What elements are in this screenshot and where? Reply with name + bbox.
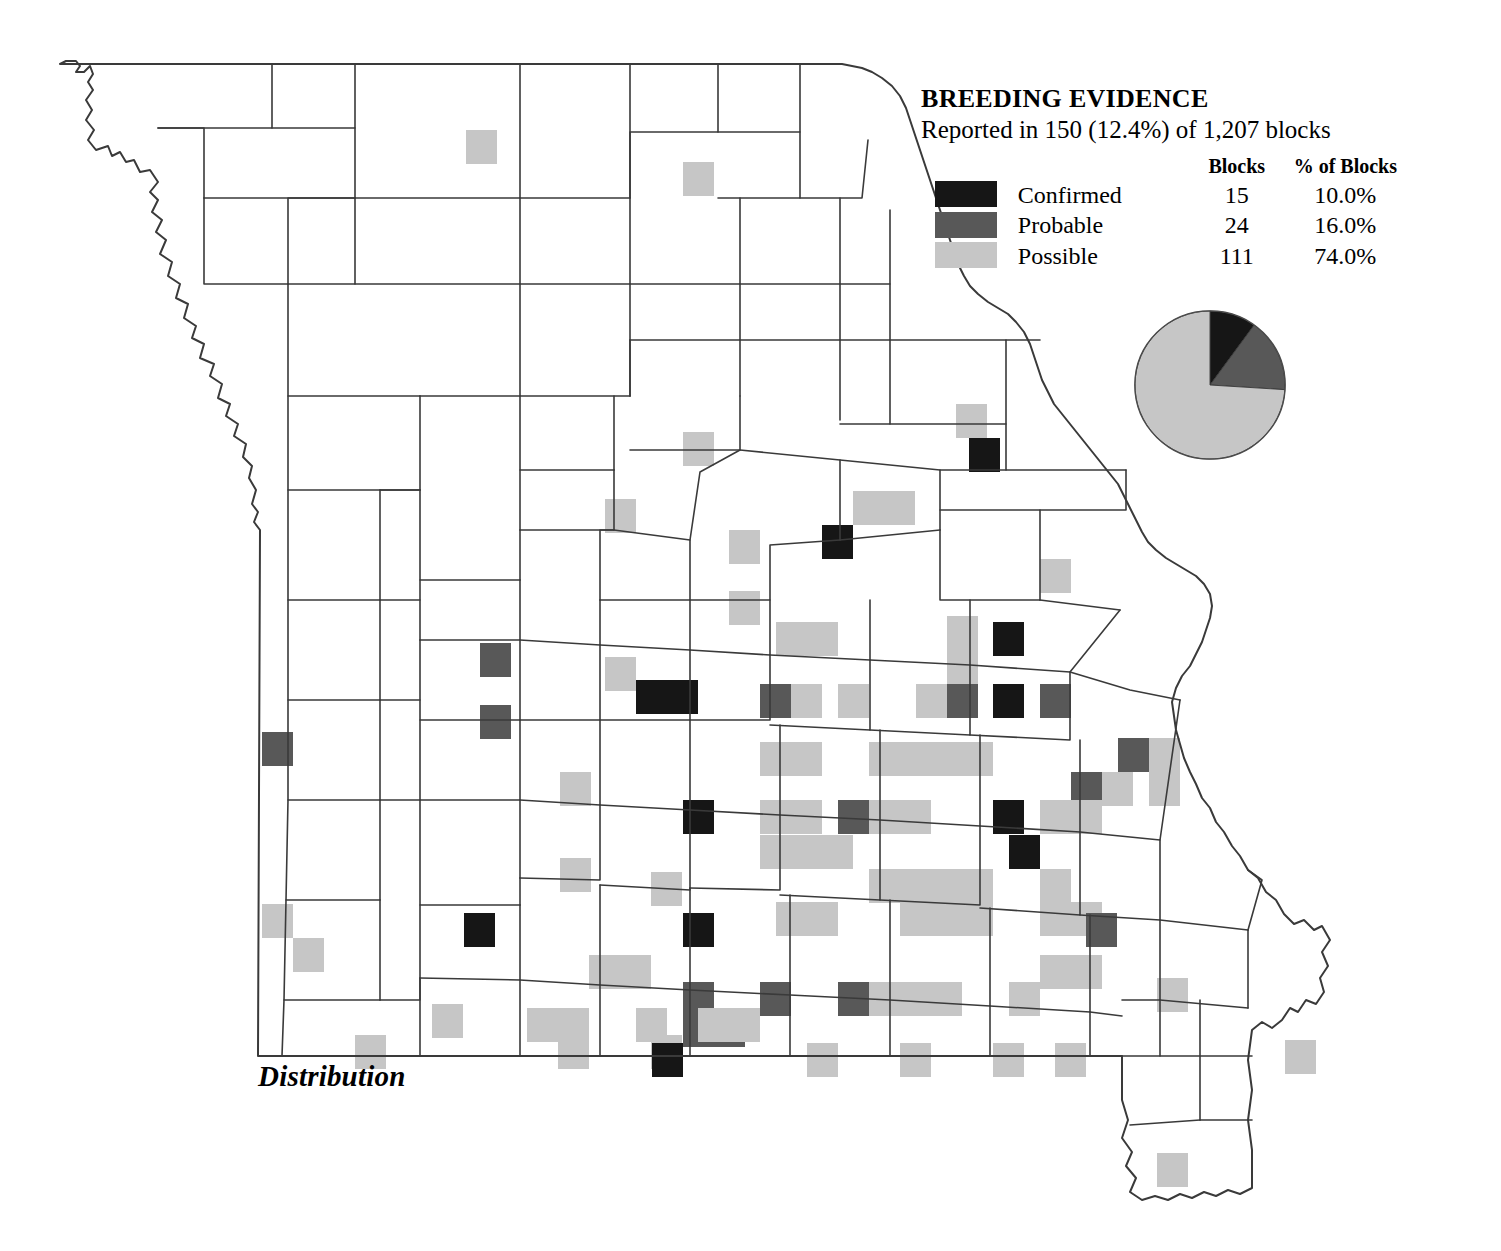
legend-percent-possible: 74.0% xyxy=(1286,241,1405,272)
legend-header-category xyxy=(1018,155,1188,180)
swatch-probable-icon xyxy=(935,212,997,238)
legend-label-confirmed: Confirmed xyxy=(1018,180,1188,211)
legend-label-possible: Possible xyxy=(1018,241,1188,272)
legend-table: Blocks % of Blocks Confirmed 15 10.0% xyxy=(935,155,1405,272)
legend-blocks-probable: 24 xyxy=(1188,210,1286,241)
legend-row: Probable 24 16.0% xyxy=(935,210,1405,241)
legend-blocks-possible: 111 xyxy=(1188,241,1286,272)
legend-header-percent: % of Blocks xyxy=(1286,155,1405,180)
legend-subtitle: Reported in 150 (12.4%) of 1,207 blocks xyxy=(921,115,1441,145)
legend-panel: BREEDING EVIDENCE Reported in 150 (12.4%… xyxy=(921,84,1441,272)
map-caption: Distribution xyxy=(258,1060,405,1093)
legend-swatch-cell xyxy=(935,210,1018,241)
legend-header-row: Blocks % of Blocks xyxy=(935,155,1405,180)
legend-header-swatch xyxy=(935,155,1018,180)
legend-label-probable: Probable xyxy=(1018,210,1188,241)
legend-row: Possible 111 74.0% xyxy=(935,241,1405,272)
pie-chart-svg xyxy=(1133,309,1287,461)
legend-title: BREEDING EVIDENCE xyxy=(921,84,1441,113)
legend-header-blocks: Blocks xyxy=(1188,155,1286,180)
legend-swatch-cell xyxy=(935,180,1018,211)
legend-percent-confirmed: 10.0% xyxy=(1286,180,1405,211)
legend-blocks-confirmed: 15 xyxy=(1188,180,1286,211)
legend-row: Confirmed 15 10.0% xyxy=(935,180,1405,211)
legend-swatch-cell xyxy=(935,241,1018,272)
breeding-evidence-pie-chart xyxy=(1133,309,1287,461)
swatch-possible-icon xyxy=(935,242,997,268)
legend-percent-probable: 16.0% xyxy=(1286,210,1405,241)
swatch-confirmed-icon xyxy=(935,181,997,207)
